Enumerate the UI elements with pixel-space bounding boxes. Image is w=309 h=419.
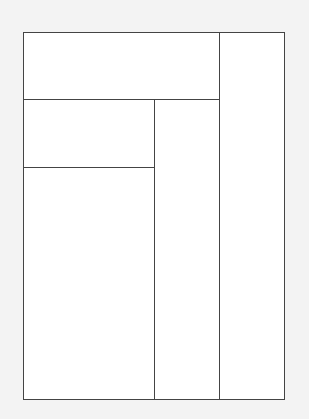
divider-vertical-right xyxy=(219,32,220,400)
divider-horizontal-top xyxy=(23,99,220,100)
divider-horizontal-middle xyxy=(23,167,155,168)
divider-vertical-middle xyxy=(154,99,155,400)
